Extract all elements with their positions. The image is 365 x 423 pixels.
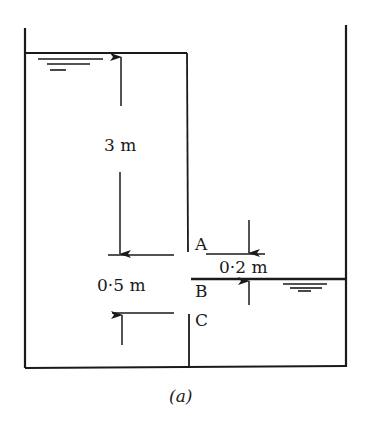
label-point-a: A: [194, 234, 208, 254]
tank-diagram: 3 m 0·5 m 0·2 m A B C (a): [0, 0, 365, 423]
left-water-surface-symbol: [38, 59, 103, 70]
dividing-wall-upper: [187, 53, 188, 252]
figure-caption: (a): [169, 386, 192, 406]
label-point-b: B: [195, 281, 208, 301]
label-3m: 3 m: [104, 135, 136, 155]
tank-bottom: [25, 366, 346, 368]
label-0-2m: 0·2 m: [219, 257, 268, 277]
label-point-c: C: [195, 310, 208, 330]
label-0-5m: 0·5 m: [97, 275, 146, 295]
right-water-surface-symbol: [283, 284, 327, 291]
